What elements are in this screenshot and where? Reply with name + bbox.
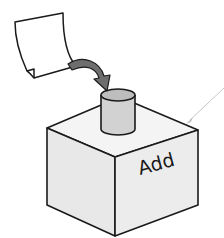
insert-arrow — [68, 60, 110, 91]
pointer-line — [186, 88, 224, 124]
paper-sheet — [15, 13, 76, 78]
cylinder-slot — [101, 89, 135, 135]
add-diagram: Add — [0, 0, 224, 238]
